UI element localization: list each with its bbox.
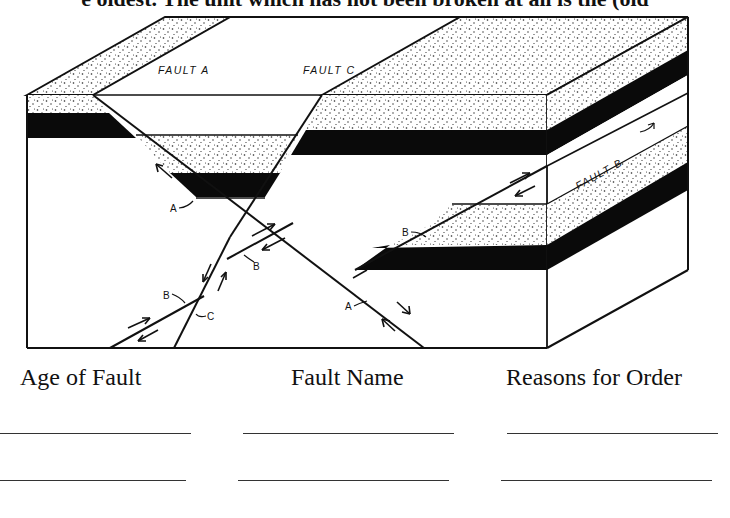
fault-a-label: FAULT A <box>158 64 210 76</box>
pointer-label-a-upper: A <box>170 203 177 214</box>
pointer-label-c: C <box>207 311 214 322</box>
front-face: A B B C A B <box>27 95 547 348</box>
pointer-label-a-lower: A <box>345 301 352 312</box>
answer-line-age-1[interactable] <box>0 433 191 434</box>
fault-block-diagram: FAULT A FAULT C <box>0 0 730 360</box>
fault-b-line-lower <box>110 296 204 348</box>
answer-line-age-2[interactable] <box>0 480 186 481</box>
answer-line-name-2[interactable] <box>238 480 449 481</box>
column-header-age: Age of Fault <box>20 364 141 391</box>
answer-line-name-1[interactable] <box>243 433 454 434</box>
pointer-label-b-left: B <box>163 290 170 301</box>
answer-line-reason-1[interactable] <box>507 433 718 434</box>
pointer-label-b-center: B <box>253 261 260 272</box>
fault-c-label: FAULT C <box>303 64 356 76</box>
column-header-fault-name: Fault Name <box>291 364 404 391</box>
pointer-label-b-right: B <box>402 227 409 238</box>
column-header-reasons: Reasons for Order <box>506 364 682 391</box>
answer-line-reason-2[interactable] <box>501 480 712 481</box>
